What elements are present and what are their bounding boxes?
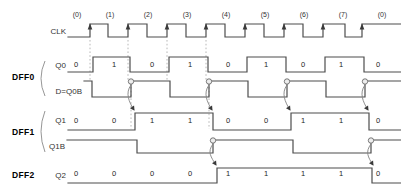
q1-value: 0 xyxy=(226,116,230,125)
q0-value: 0 xyxy=(150,60,154,69)
q1-value: 0 xyxy=(74,116,78,125)
d-q0b-label: D=Q0B xyxy=(56,87,82,96)
q2-value: 1 xyxy=(301,169,305,178)
q1b-label: Q1B xyxy=(49,142,65,151)
period-label: (0) xyxy=(378,11,387,19)
dff2-label: DFF2 xyxy=(12,170,34,180)
q2-value: 0 xyxy=(188,169,192,178)
edge-markers xyxy=(41,23,374,165)
period-label: (6) xyxy=(300,11,309,19)
period-label: (1) xyxy=(106,11,115,19)
dff0-label: DFF0 xyxy=(12,72,34,82)
period-label: (0) xyxy=(73,11,82,19)
period-label: (7) xyxy=(339,11,348,19)
q1-value: 0 xyxy=(112,116,116,125)
q1-value: 1 xyxy=(188,116,192,125)
row-labels: CLK Q0 D=Q0B Q1 Q1B Q2 DFF0 DFF1 DFF2 xyxy=(12,27,82,180)
period-label: (3) xyxy=(183,11,192,19)
q1-value: 1 xyxy=(339,116,343,125)
q2-value: 0 xyxy=(376,169,380,178)
q2-value: 0 xyxy=(150,169,154,178)
q2-value: 1 xyxy=(339,169,343,178)
clk-waveform xyxy=(68,24,401,37)
dff1-label: DFF1 xyxy=(12,127,34,137)
clock-out-circle xyxy=(284,79,289,84)
cause-arrow xyxy=(368,144,373,165)
q0-value: 0 xyxy=(226,60,230,69)
q1-value: 1 xyxy=(301,116,305,125)
q1b-waveform xyxy=(67,140,401,153)
clock-out-circle xyxy=(362,79,367,84)
clock-out-circle xyxy=(128,79,133,84)
q2-value: 0 xyxy=(112,169,116,178)
clock-out-circle xyxy=(206,79,211,84)
q0-value: 0 xyxy=(376,60,380,69)
q0-value: 1 xyxy=(112,60,116,69)
q0-value: 0 xyxy=(74,60,78,69)
q2-label: Q2 xyxy=(55,171,66,180)
q0-value: 1 xyxy=(188,60,192,69)
q0-label: Q0 xyxy=(55,61,66,70)
q0-waveform xyxy=(68,57,401,72)
q2-waveform xyxy=(68,168,401,183)
q0-value: 0 xyxy=(301,60,305,69)
clock-out-circle xyxy=(368,138,373,143)
clk-label: CLK xyxy=(50,27,66,36)
dff0-brace xyxy=(41,61,45,96)
q1-label: Q1 xyxy=(55,116,66,125)
period-label: (2) xyxy=(144,11,153,19)
q1-waveform xyxy=(68,113,401,130)
q1-value: 0 xyxy=(376,116,380,125)
dff1-brace xyxy=(41,111,45,152)
period-label: (4) xyxy=(222,11,231,19)
q0-value: 1 xyxy=(264,60,268,69)
timing-diagram: 010101010001100110000011110(0)(1)(2)(3)(… xyxy=(0,0,401,194)
q1-value: 1 xyxy=(150,116,154,125)
q2-value: 1 xyxy=(226,169,230,178)
period-label: (5) xyxy=(261,11,270,19)
waveforms xyxy=(67,24,401,183)
waveform-canvas: 010101010001100110000011110(0)(1)(2)(3)(… xyxy=(0,0,401,194)
q2-value: 1 xyxy=(264,169,268,178)
q1-value: 0 xyxy=(264,116,268,125)
clock-out-circle xyxy=(210,138,215,143)
q0-value: 1 xyxy=(339,60,343,69)
q2-value: 0 xyxy=(74,169,78,178)
